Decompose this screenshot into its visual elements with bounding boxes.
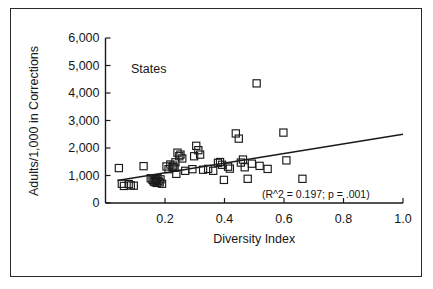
x-axis-tick-label: 1.0 [394, 212, 411, 226]
data-point-marker [118, 180, 125, 187]
data-point-marker [220, 176, 227, 183]
data-point-marker [264, 165, 271, 172]
trendline-segment [117, 134, 403, 180]
y-axis-title: Adults/1,000 in Corrections [27, 45, 41, 195]
data-point-marker [193, 142, 200, 149]
y-axis-tick-label: 1,000 [68, 169, 99, 183]
data-point-marker [244, 175, 251, 182]
series-label: States [131, 62, 166, 76]
data-point-marker [115, 164, 122, 171]
x-axis-title: Diversity Index [213, 232, 295, 246]
y-axis-tick-label: 5,000 [68, 59, 99, 73]
data-point-marker [280, 129, 287, 136]
y-axis-tick-label: 0 [93, 196, 100, 210]
data-point-marker [299, 175, 306, 182]
x-axis-tick-label: 0.2 [156, 212, 173, 226]
data-point-marker [232, 130, 239, 137]
x-axis-tick-label: 0.4 [216, 212, 233, 226]
x-axis-tick-label: 0.8 [335, 212, 352, 226]
data-point-marker [226, 165, 233, 172]
data-point-marker [182, 167, 189, 174]
data-point-marker [140, 163, 147, 170]
data-point-marker [210, 167, 217, 174]
y-axis-tick-label: 3,000 [68, 114, 99, 128]
data-points-group [115, 80, 306, 190]
data-point-marker [253, 80, 260, 87]
figure-container: Adults/1,000 in Corrections Diversity In… [0, 0, 433, 289]
data-point-marker [283, 157, 290, 164]
y-axis-tick-label: 6,000 [68, 31, 99, 45]
data-point-marker [248, 160, 255, 167]
data-point-marker [235, 135, 242, 142]
data-point-marker [256, 162, 263, 169]
statistics-annotation: (R^2 = 0.197; p = .001) [262, 188, 370, 200]
data-point-marker [120, 182, 127, 189]
y-axis-tick-label: 2,000 [68, 141, 99, 155]
x-axis-tick-label: 0.6 [275, 212, 292, 226]
y-axis-tick-label: 4,000 [68, 86, 99, 100]
regression-trendline [117, 134, 403, 180]
